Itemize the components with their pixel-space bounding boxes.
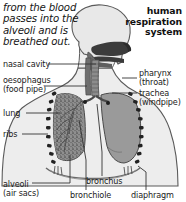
label-alveoli: alveoli (air sacs) <box>3 180 39 199</box>
trachea <box>91 60 99 96</box>
intro-text: from the blood passes into the alveoli a… <box>3 2 95 48</box>
label-oesophagus: oesophagus (food pipe) <box>3 76 51 95</box>
label-trachea: trachea (windpipe) <box>139 89 181 108</box>
label-nasal-cavity: nasal cavity <box>3 60 50 69</box>
label-pharynx: pharynx (throat) <box>139 69 171 88</box>
label-bronchiole: bronchiole <box>70 191 111 200</box>
label-bronchus: bronchus <box>86 177 122 186</box>
label-lung: lung <box>3 109 20 118</box>
label-ribs: ribs <box>3 130 17 139</box>
label-diaphragm: diaphragm <box>131 191 174 200</box>
figure-title: human respiration system <box>118 6 182 38</box>
